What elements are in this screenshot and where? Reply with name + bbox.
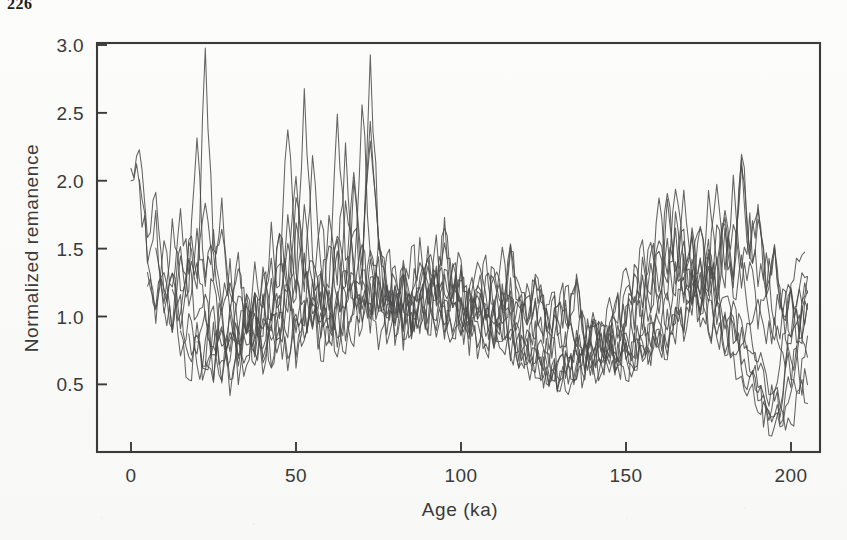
- series-line: [172, 89, 807, 425]
- y-tick-label: 2.5: [56, 103, 84, 124]
- x-tick-label: 0: [126, 465, 137, 486]
- y-axis-ticks: 0.51.01.52.02.53.0: [56, 35, 107, 395]
- y-tick-label: 0.5: [56, 374, 84, 395]
- x-tick-label: 50: [285, 465, 307, 486]
- y-tick-label: 1.5: [56, 239, 84, 260]
- y-tick-label: 3.0: [56, 35, 84, 56]
- x-tick-label: 200: [775, 465, 808, 486]
- y-axis-label: Normalized remanence: [21, 144, 42, 352]
- paleointensity-line-chart: Normalized remanence Age (ka) 0.51.01.52…: [0, 0, 847, 540]
- figure-container: Normalized remanence Age (ka) 0.51.01.52…: [0, 0, 847, 540]
- data-series-group: [131, 48, 808, 436]
- plot-frame: [97, 43, 820, 452]
- y-tick-label: 1.0: [56, 307, 84, 328]
- x-axis-label: Age (ka): [422, 499, 499, 520]
- x-tick-label: 100: [445, 465, 478, 486]
- x-tick-label: 150: [610, 465, 643, 486]
- y-tick-label: 2.0: [56, 171, 84, 192]
- x-axis-ticks: 050100150200: [126, 442, 808, 486]
